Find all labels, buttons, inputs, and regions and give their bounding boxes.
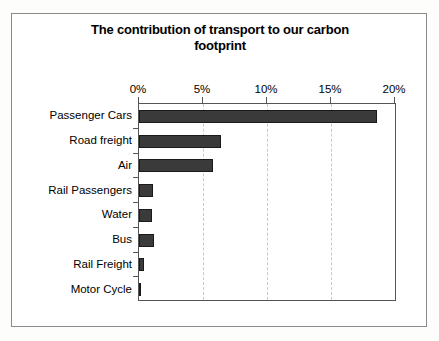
y-axis-category-label: Rail Freight [12,258,132,270]
chart-title-line-2: footprint [12,38,428,54]
gridline [203,104,204,300]
y-axis-category-label: Water [12,208,132,220]
bar [139,110,377,123]
bar [139,283,141,296]
chart-title: The contribution of transport to our car… [12,22,428,54]
x-axis-tick-labels: 0%5%10%15%20% [138,83,396,99]
bar [139,209,152,222]
y-axis-category-label: Road freight [12,134,132,146]
y-axis-category-label: Passenger Cars [12,109,132,121]
x-axis-tick-label: 0% [130,83,147,95]
chart-title-line-1: The contribution of transport to our car… [12,22,428,38]
y-axis-category-label: Motor Cycle [12,283,132,295]
y-axis-tick-mark [133,252,138,253]
bar [139,258,144,271]
x-axis-tick-label: 15% [318,83,341,95]
x-axis-tick-label: 5% [194,83,211,95]
y-axis-tick-mark [133,128,138,129]
gridline [331,104,332,300]
y-axis-tick-mark [133,177,138,178]
bar [139,159,213,172]
x-axis-tick-mark [394,97,395,103]
gridline [267,104,268,300]
plot-area [138,103,396,301]
y-axis-tick-mark [133,202,138,203]
x-axis-tick-mark [202,97,203,103]
y-axis-category-label: Rail Passengers [12,184,132,196]
y-axis-category-labels: Passenger CarsRoad freightAirRail Passen… [12,103,132,301]
y-axis-category-label: Bus [12,233,132,245]
bar [139,135,221,148]
x-axis-tick-label: 10% [254,83,277,95]
y-axis-tick-mark [133,153,138,154]
x-axis-tick-mark [138,97,139,103]
x-axis-tick-label: 20% [382,83,405,95]
y-axis-tick-mark [133,276,138,277]
y-axis-tick-mark [133,227,138,228]
y-axis-category-label: Air [12,159,132,171]
bar [139,184,153,197]
x-axis-tick-mark [330,97,331,103]
chart-frame: The contribution of transport to our car… [11,13,427,327]
bar [139,234,154,247]
x-axis-tick-mark [266,97,267,103]
